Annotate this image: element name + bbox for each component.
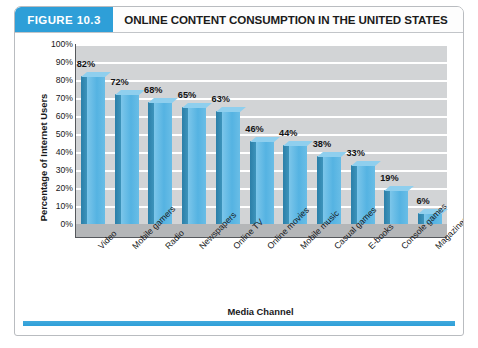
y-axis-tick-label: 30% <box>19 165 73 175</box>
bar-value-label: 82% <box>66 59 106 69</box>
bar-front-face <box>390 189 408 224</box>
bar-front-face <box>87 75 105 224</box>
figure-panel: FIGURE 10.3 ONLINE CONTENT CONSUMPTION I… <box>14 6 464 336</box>
bar-value-label: 44% <box>268 128 308 138</box>
figure-number-tag: FIGURE 10.3 <box>15 7 113 32</box>
bar <box>81 76 105 224</box>
y-axis-tick-label: 10% <box>19 201 73 211</box>
y-axis-tick-label: 40% <box>19 147 73 157</box>
bar-top-face <box>384 186 414 191</box>
bar-top-face <box>351 161 381 166</box>
bar-top-face <box>250 137 280 142</box>
bar-front-face <box>256 140 274 224</box>
bar <box>182 107 206 224</box>
bar <box>384 190 408 224</box>
bar-chart: Percentage of Internet Users 0%10%20%30%… <box>15 32 463 335</box>
gridline <box>76 44 447 46</box>
bar-value-label: 33% <box>336 148 376 158</box>
bar-value-label: 19% <box>369 173 409 183</box>
figure-title: ONLINE CONTENT CONSUMPTION IN THE UNITED… <box>113 7 463 32</box>
gridline <box>76 62 447 64</box>
bar-value-label: 63% <box>201 94 241 104</box>
bar-front-face <box>121 93 139 224</box>
bar-top-face <box>182 103 212 108</box>
bar-front-face <box>188 106 206 224</box>
figure-header: FIGURE 10.3 ONLINE CONTENT CONSUMPTION I… <box>15 7 463 33</box>
y-axis-tick-label: 70% <box>19 93 73 103</box>
y-axis-ticks: 0%10%20%30%40%50%60%70%80%90%100% <box>15 44 73 237</box>
x-axis-title: Media Channel <box>75 306 446 317</box>
bar-value-label: 6% <box>403 196 443 206</box>
y-axis-tick-label: 50% <box>19 129 73 139</box>
y-axis-tick-label: 0% <box>19 219 73 229</box>
y-axis-tick-label: 20% <box>19 183 73 193</box>
bar-top-face <box>216 107 246 112</box>
bar <box>115 94 139 224</box>
plot-area <box>75 44 447 238</box>
figure-bottom-rule <box>23 321 455 326</box>
y-axis-tick-label: 100% <box>19 39 73 49</box>
y-axis-tick-label: 60% <box>19 111 73 121</box>
y-axis-tick-label: 80% <box>19 75 73 85</box>
bar <box>250 141 274 224</box>
